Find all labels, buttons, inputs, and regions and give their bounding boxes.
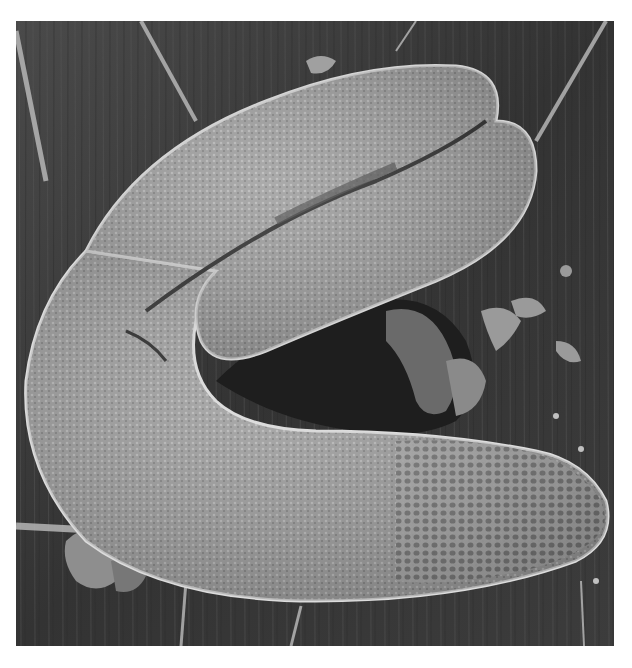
seed-micrograph <box>16 21 614 646</box>
micrograph-frame <box>16 21 614 646</box>
